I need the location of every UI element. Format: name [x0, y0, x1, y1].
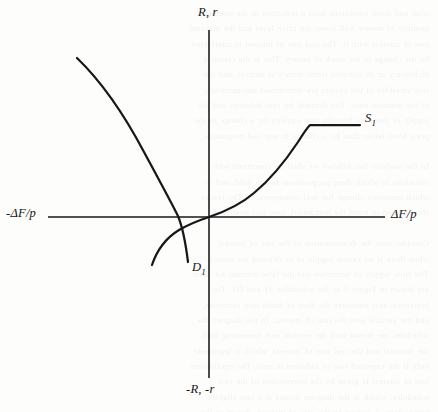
demand-curve-label-subscript: 1 [201, 267, 206, 277]
demand-curve-d1 [77, 58, 188, 262]
supply-curve-label-subscript: 1 [372, 118, 377, 128]
supply-curve-s1 [152, 125, 360, 265]
axis-label-vertical-top: R, r [198, 5, 218, 20]
supply-curve-label: S1 [365, 111, 376, 128]
demand-curve-label-text: D [192, 260, 201, 274]
diagram-svg [0, 0, 438, 412]
demand-curve-label: D1 [192, 260, 206, 277]
axis-label-vertical-bottom: -R, -r [186, 382, 214, 397]
axis-label-horizontal-right: ΔF/p [391, 207, 417, 222]
axis-label-horizontal-left: -ΔF/p [6, 206, 36, 221]
figure-canvas: wise and these conditions hold a reducti… [0, 0, 438, 412]
